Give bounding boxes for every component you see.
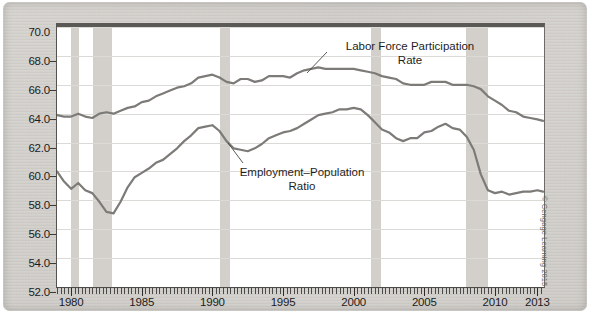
y-axis-tick-label: 64.0	[6, 113, 50, 125]
x-axis-minor-tick	[315, 288, 316, 294]
x-axis-minor-tick	[117, 288, 118, 294]
y-axis: 52.054.056.058.060.062.064.066.068.070.0	[0, 23, 50, 288]
x-axis-tick-label: 1985	[129, 296, 154, 308]
x-axis-minor-tick	[340, 288, 341, 294]
x-axis-minor-tick	[195, 288, 196, 294]
x-axis-minor-tick	[534, 288, 535, 294]
x-axis-minor-tick	[453, 288, 454, 294]
y-axis-tick-label: 66.0	[6, 84, 50, 96]
x-axis-minor-tick	[368, 288, 369, 294]
x-axis-minor-tick	[131, 288, 132, 294]
x-axis-tick-label: 1995	[271, 296, 296, 308]
x-axis-minor-tick	[417, 288, 418, 294]
x-axis-minor-tick	[410, 288, 411, 294]
x-axis-minor-tick	[170, 288, 171, 294]
x-axis-minor-tick	[378, 288, 379, 294]
x-axis-major-tick	[71, 288, 72, 296]
x-axis-tick-label: 2000	[341, 296, 366, 308]
x-axis-major-tick	[354, 288, 355, 296]
annotation-epop-line2: Ratio	[216, 180, 388, 194]
x-axis-minor-tick	[82, 288, 83, 294]
x-axis-minor-tick	[181, 288, 182, 294]
x-axis-minor-tick	[375, 288, 376, 294]
x-axis-minor-tick	[541, 288, 542, 294]
x-axis-minor-tick	[92, 288, 93, 294]
y-axis-tick-label: 54.0	[6, 257, 50, 269]
x-axis-minor-tick	[230, 288, 231, 294]
x-axis-minor-tick	[248, 288, 249, 294]
x-axis-minor-tick	[110, 288, 111, 294]
annotation-epop-line1: Employment–Population	[216, 166, 388, 180]
x-axis-minor-tick	[506, 288, 507, 294]
x-axis-minor-tick	[396, 288, 397, 294]
x-axis-minor-tick	[527, 288, 528, 294]
x-axis-minor-tick	[68, 288, 69, 294]
x-axis-minor-tick	[174, 288, 175, 294]
x-axis-minor-tick	[255, 288, 256, 294]
x-axis-minor-tick	[149, 288, 150, 294]
x-axis-minor-tick	[530, 288, 531, 294]
x-axis-minor-tick	[166, 288, 167, 294]
x-axis-minor-tick	[435, 288, 436, 294]
x-axis-minor-tick	[114, 288, 115, 294]
x-axis-minor-tick	[393, 288, 394, 294]
x-axis-minor-tick	[523, 288, 524, 294]
annotation-lfpr-line2: Rate	[330, 54, 490, 68]
y-axis-tick-label: 68.0	[6, 55, 50, 67]
x-axis-minor-tick	[209, 288, 210, 294]
x-axis-minor-tick	[304, 288, 305, 294]
x-axis-minor-tick	[124, 288, 125, 294]
x-axis-major-tick	[142, 288, 143, 296]
x-axis-minor-tick	[156, 288, 157, 294]
x-axis-minor-tick	[89, 288, 90, 294]
y-axis-tick-label: 56.0	[6, 228, 50, 240]
x-axis-minor-tick	[57, 288, 58, 294]
x-axis-minor-tick	[227, 288, 228, 294]
x-axis-tick-label: 2010	[483, 296, 508, 308]
x-axis-major-tick	[495, 288, 496, 296]
x-axis-minor-tick	[389, 288, 390, 294]
x-axis-minor-tick	[385, 288, 386, 294]
x-axis-minor-tick	[265, 288, 266, 294]
x-axis-minor-tick	[449, 288, 450, 294]
x-axis-minor-tick	[301, 288, 302, 294]
x-axis-minor-tick	[184, 288, 185, 294]
y-axis-tick-mark	[50, 292, 56, 293]
x-axis-minor-tick	[498, 288, 499, 294]
x-axis-minor-tick	[477, 288, 478, 294]
x-axis-minor-tick	[350, 288, 351, 294]
x-axis-minor-tick	[329, 288, 330, 294]
y-axis-tick-label: 58.0	[6, 199, 50, 211]
x-axis-minor-tick	[290, 288, 291, 294]
x-axis-minor-tick	[241, 288, 242, 294]
x-axis-minor-tick	[96, 288, 97, 294]
x-axis-minor-tick	[121, 288, 122, 294]
x-axis-minor-tick	[145, 288, 146, 294]
y-axis-tick-label: 70.0	[6, 26, 50, 38]
x-axis-minor-tick	[414, 288, 415, 294]
x-axis-minor-tick	[361, 288, 362, 294]
x-axis-minor-tick	[421, 288, 422, 294]
x-axis-minor-tick	[297, 288, 298, 294]
x-axis-minor-tick	[258, 288, 259, 294]
x-axis-minor-tick	[460, 288, 461, 294]
x-axis-minor-tick	[474, 288, 475, 294]
x-axis-minor-tick	[502, 288, 503, 294]
x-axis-minor-tick	[128, 288, 129, 294]
x-axis-minor-tick	[509, 288, 510, 294]
x-axis-minor-tick	[219, 288, 220, 294]
x-axis-minor-tick	[513, 288, 514, 294]
x-axis-minor-tick	[311, 288, 312, 294]
x-axis-minor-tick	[205, 288, 206, 294]
x-axis-minor-tick	[364, 288, 365, 294]
x-axis-minor-tick	[75, 288, 76, 294]
x-axis-minor-tick	[343, 288, 344, 294]
x-axis-minor-tick	[251, 288, 252, 294]
x-axis-minor-tick	[276, 288, 277, 294]
x-axis-minor-tick	[99, 288, 100, 294]
annotation-lfpr-line1: Labor Force Participation	[330, 40, 490, 54]
x-axis-labels: 19801985199019952000200520102013	[0, 296, 592, 312]
annotation-labor-force-participation-rate: Labor Force Participation Rate	[330, 40, 490, 67]
x-axis-minor-tick	[438, 288, 439, 294]
x-axis-minor-tick	[216, 288, 217, 294]
